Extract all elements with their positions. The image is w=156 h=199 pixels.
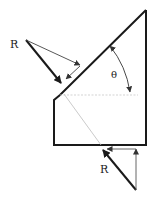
force-label-top: R xyxy=(10,38,19,51)
prism-force-diagram: θ R R xyxy=(0,0,156,199)
internal-diagonal-line xyxy=(64,94,101,145)
force-arrow-top xyxy=(26,40,61,83)
angle-arc-start-arrow xyxy=(110,46,114,50)
angle-theta-label: θ xyxy=(111,69,117,80)
force-label-bottom: R xyxy=(100,163,109,176)
force-component-top-a xyxy=(26,40,80,65)
